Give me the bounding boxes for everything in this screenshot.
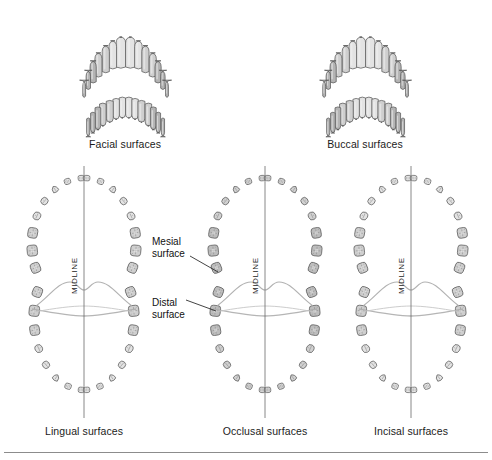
midline-label-incisal: MIDLINE [397, 257, 406, 294]
dental-surfaces-figure [0, 0, 492, 460]
annotation-mesial-line2: surface [152, 248, 185, 260]
midline-label-occlusal: MIDLINE [251, 257, 260, 294]
annotation-distal-line1: Distal [152, 297, 185, 309]
annotation-distal-surface: Distal surface [152, 297, 185, 320]
annotation-distal-line2: surface [152, 309, 185, 321]
footer-divider [4, 452, 488, 453]
caption-facial-surfaces: Facial surfaces [45, 138, 205, 150]
caption-buccal-surfaces: Buccal surfaces [285, 138, 445, 150]
dental-arch-illustration [0, 0, 492, 460]
caption-lingual-surfaces: Lingual surfaces [4, 425, 164, 437]
midline-label-lingual: MIDLINE [70, 257, 79, 294]
annotation-mesial-line1: Mesial [152, 236, 185, 248]
caption-incisal-surfaces: Incisal surfaces [331, 425, 491, 437]
caption-occlusal-surfaces: Occlusal surfaces [185, 425, 345, 437]
annotation-mesial-surface: Mesial surface [152, 236, 185, 259]
